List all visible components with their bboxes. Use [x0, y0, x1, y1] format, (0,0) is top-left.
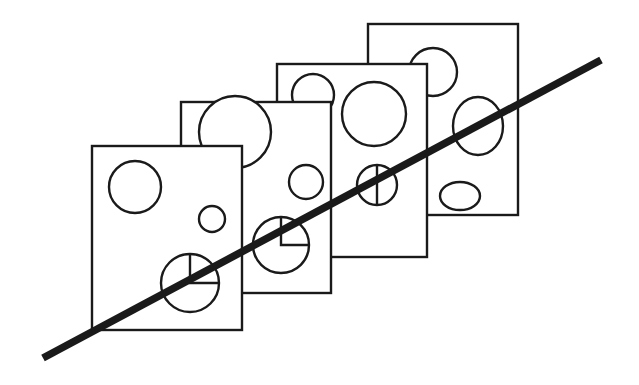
illustration-canvas	[0, 0, 639, 385]
hole-circle	[342, 82, 406, 146]
plate-front-plate	[92, 146, 242, 330]
hole-circle	[199, 206, 225, 232]
hole-ellipse	[440, 182, 480, 210]
hole-circle	[289, 165, 323, 199]
hole-circle	[109, 161, 161, 213]
line-art-figure	[0, 0, 639, 385]
